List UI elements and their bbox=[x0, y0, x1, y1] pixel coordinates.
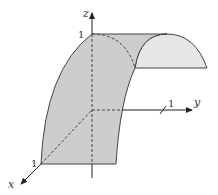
z-tick-label: 1 bbox=[78, 29, 84, 40]
y-axis-label: y bbox=[193, 96, 201, 109]
x-tick-label: 1 bbox=[31, 158, 37, 169]
y-tick-label: 1 bbox=[168, 98, 174, 109]
parabolic-cylinder-diagram: z 1 y 1 x 1 bbox=[0, 0, 218, 195]
z-axis-label: z bbox=[82, 7, 89, 20]
x-axis-label: x bbox=[8, 178, 15, 191]
